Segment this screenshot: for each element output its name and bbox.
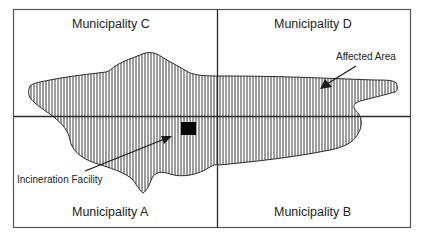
municipality-d-label: Municipality D — [274, 17, 352, 31]
municipality-a-label: Municipality A — [72, 205, 148, 219]
incineration-facility-label: Incineration Facility — [17, 174, 103, 185]
incineration-facility-marker — [181, 122, 196, 135]
municipality-map-diagram — [0, 0, 423, 239]
municipality-b-label: Municipality B — [274, 205, 351, 219]
municipality-c-label: Municipality C — [72, 17, 150, 31]
affected-area-label: Affected Area — [336, 51, 396, 62]
